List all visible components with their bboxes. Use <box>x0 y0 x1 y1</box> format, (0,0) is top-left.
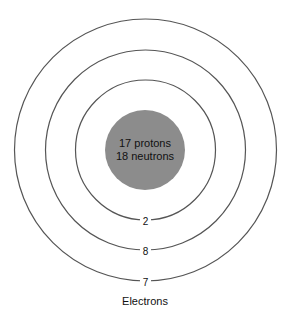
nucleus-protons: 17 protons <box>119 137 171 149</box>
shell-2-electron-count: 8 <box>143 246 149 257</box>
shell-1-electron-count: 2 <box>143 216 149 227</box>
atom-diagram: 17 protons 18 neutrons 2 8 7 Electrons <box>0 0 288 320</box>
shell-3-electron-count: 7 <box>143 277 149 288</box>
electrons-caption: Electrons <box>122 295 168 307</box>
nucleus-neutrons: 18 neutrons <box>116 150 175 162</box>
